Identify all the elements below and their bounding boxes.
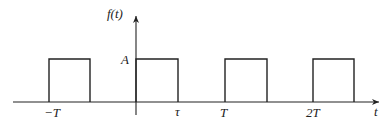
amplitude-label: A bbox=[120, 52, 129, 67]
tick-label-T: T bbox=[220, 105, 228, 120]
pulse-T bbox=[225, 59, 267, 102]
pulse-train-diagram: f(t) A −T τ T 2T t bbox=[0, 0, 387, 124]
pulse-minus-T bbox=[49, 59, 90, 102]
x-axis-label: t bbox=[374, 104, 378, 119]
tick-label-tau: τ bbox=[175, 104, 181, 119]
tick-label-2T: 2T bbox=[306, 105, 321, 120]
pulse-2T bbox=[313, 59, 354, 102]
pulses bbox=[49, 59, 354, 102]
function-label: f(t) bbox=[107, 6, 123, 21]
tick-label-minus-T: −T bbox=[44, 105, 61, 120]
pulse-0 bbox=[136, 59, 178, 102]
